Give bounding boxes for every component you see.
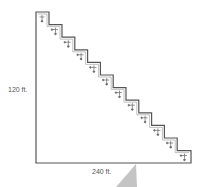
width-label: 240 ft.: [92, 168, 111, 175]
plant-cross-icon: [40, 15, 45, 22]
plant-cross-icon: [77, 53, 84, 60]
plant-cross-icon: [102, 78, 109, 85]
plant-cross-icon: [64, 40, 71, 47]
plant-cross-icon: [141, 116, 148, 123]
plant-cross-icon: [166, 141, 173, 148]
height-label: 120 ft.: [8, 86, 27, 93]
plant-cross-icon: [115, 91, 122, 98]
plant-cross-icon: [128, 103, 135, 110]
staircase-outline: [36, 12, 191, 163]
plant-cross-icon: [154, 128, 161, 135]
plant-cross-icon: [90, 65, 97, 72]
plant-cross-icon: [180, 154, 187, 161]
stepped-triangle-diagram: [0, 0, 203, 187]
gray-wedge: [116, 164, 137, 187]
plant-cross-icon: [51, 28, 58, 35]
